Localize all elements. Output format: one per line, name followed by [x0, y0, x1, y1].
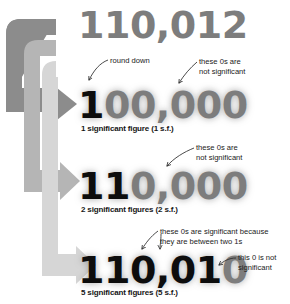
number-two-sf: 110,000 — [78, 167, 248, 205]
annotation-this-zero-line-2: significant — [238, 263, 276, 273]
annotation-this-zero-line-1: this 0 is not — [238, 253, 276, 263]
annotation-zeros-1-line-1: these 0s are — [199, 57, 245, 67]
pointer-zeros-1 — [179, 62, 197, 83]
arrow-to-2sf — [24, 40, 80, 200]
number-one-sf-significant: 1 — [78, 83, 104, 127]
caption-two-sf: 2 significant figures (2 s.f.) — [81, 205, 178, 214]
number-one-sf-nonsignificant: 00,000 — [104, 83, 248, 127]
annotation-zeros-not-significant-2: these 0s are not significant — [196, 143, 242, 162]
arrow-to-1sf — [6, 19, 77, 120]
number-one-sf: 100,000 — [78, 86, 248, 124]
number-two-sf-significant: 11 — [78, 164, 130, 208]
significant-figures-diagram: 110,012 100,000 110,000 110,010 1 signif… — [0, 0, 290, 304]
number-original: 110,012 — [78, 6, 248, 44]
number-five-sf: 110,010 — [78, 251, 248, 289]
annotation-round-down-line-1: round down — [110, 56, 150, 66]
annotation-round-down: round down — [110, 56, 150, 66]
caption-five-sf: 5 significant figures (5 s.f.) — [81, 288, 178, 297]
pointer-round-down — [89, 60, 108, 80]
annotation-between-line-1: these 0s are significant because — [160, 227, 269, 237]
annotation-zeros-1-line-2: not significant — [199, 67, 245, 77]
number-original-digits: 110,012 — [78, 3, 248, 47]
annotation-zeros-2-line-1: these 0s are — [196, 143, 242, 153]
annotation-zeros-2-line-2: not significant — [196, 153, 242, 163]
number-two-sf-nonsignificant: 0,000 — [130, 164, 248, 208]
annotation-between-line-2: they are between two 1s — [160, 237, 269, 247]
annotation-this-zero-not-significant: this 0 is not significant — [238, 253, 276, 272]
number-five-sf-significant: 110,01 — [78, 248, 222, 292]
caption-one-sf: 1 significant figure (1 s.f.) — [81, 124, 174, 133]
annotation-zeros-not-significant-1: these 0s are not significant — [199, 57, 245, 76]
pointer-between-left — [142, 231, 158, 249]
annotation-zeros-significant-between: these 0s are significant because they ar… — [160, 227, 269, 246]
